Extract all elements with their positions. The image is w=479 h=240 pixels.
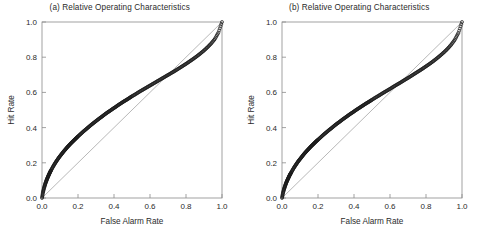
y-tick-label: 0.0 bbox=[26, 194, 38, 203]
y-tick-label: 0.6 bbox=[265, 88, 277, 97]
y-tick-label: 0.8 bbox=[265, 53, 277, 62]
x-tick-label: 0.2 bbox=[312, 202, 324, 211]
y-tick-label: 0.2 bbox=[265, 159, 277, 168]
x-tick-label: 0.0 bbox=[36, 202, 48, 211]
y-tick-label: 0.8 bbox=[26, 53, 38, 62]
roc-figure: (a) Relative Operating Characteristics 0… bbox=[0, 0, 479, 240]
panel-a: (a) Relative Operating Characteristics 0… bbox=[0, 0, 240, 240]
y-tick-label: 0.0 bbox=[265, 194, 277, 203]
x-tick-label: 1.0 bbox=[456, 202, 468, 211]
y-tick-label: 0.6 bbox=[26, 88, 38, 97]
x-axis-label: False Alarm Rate bbox=[340, 217, 403, 226]
x-tick-label: 1.0 bbox=[216, 202, 228, 211]
x-axis-label: False Alarm Rate bbox=[101, 217, 164, 226]
panel-a-plot: 0.00.20.40.60.81.00.00.20.40.60.81.0Fals… bbox=[0, 0, 240, 240]
x-tick-label: 0.6 bbox=[144, 202, 156, 211]
x-tick-label: 0.0 bbox=[276, 202, 288, 211]
y-axis-label: Hit Rate bbox=[247, 95, 256, 125]
y-axis-label: Hit Rate bbox=[7, 95, 16, 125]
x-tick-label: 0.8 bbox=[420, 202, 432, 211]
x-tick-label: 0.6 bbox=[384, 202, 396, 211]
panel-b: (b) Relative Operating Characteristics 0… bbox=[240, 0, 479, 240]
y-tick-label: 0.4 bbox=[26, 124, 38, 133]
x-tick-label: 0.4 bbox=[348, 202, 360, 211]
no-skill-diagonal-line bbox=[282, 22, 462, 198]
y-tick-label: 0.4 bbox=[265, 124, 277, 133]
x-tick-label: 0.4 bbox=[108, 202, 120, 211]
y-tick-label: 1.0 bbox=[26, 18, 38, 27]
y-tick-label: 0.2 bbox=[26, 159, 38, 168]
x-tick-label: 0.8 bbox=[180, 202, 192, 211]
no-skill-diagonal-line bbox=[42, 22, 222, 198]
x-tick-label: 0.2 bbox=[72, 202, 84, 211]
y-tick-label: 1.0 bbox=[265, 18, 277, 27]
panel-b-plot: 0.00.20.40.60.81.00.00.20.40.60.81.0Fals… bbox=[240, 0, 479, 240]
